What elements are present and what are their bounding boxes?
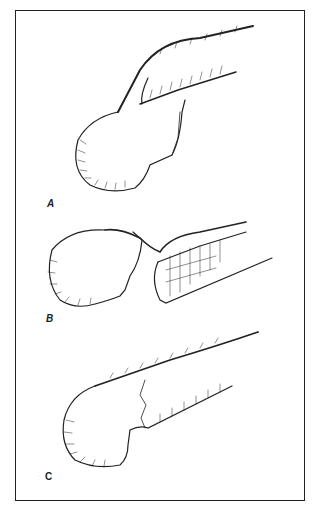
panel-b-drawing (48, 222, 272, 306)
panel-c-drawing (63, 332, 258, 467)
femur-illustrations (0, 0, 319, 507)
panel-a-drawing (76, 26, 253, 191)
panel-label-a: A (47, 198, 54, 209)
panel-label-c: C (45, 471, 52, 482)
panel-label-b: B (46, 313, 53, 324)
